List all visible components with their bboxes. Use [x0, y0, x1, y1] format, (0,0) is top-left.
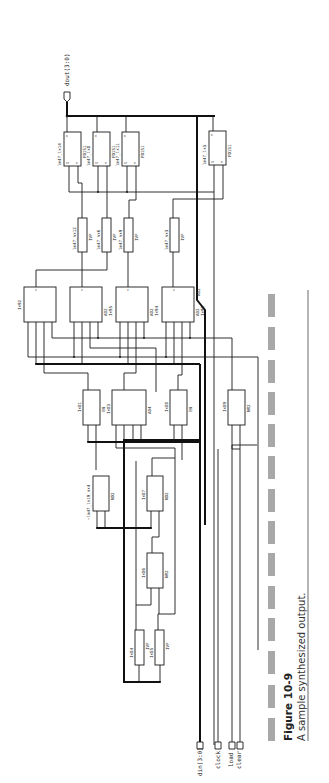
- svg-text:IVP: IVP: [88, 233, 93, 241]
- svg-text:lm47_nx3: lm47_nx3: [164, 229, 169, 250]
- input-port-load: load: [227, 742, 235, 767]
- svg-text:Ix95: Ix95: [108, 305, 113, 316]
- gate-lx19-nx4: ~lm47_lx19_nx4 ND2: [86, 476, 115, 520]
- gate-ix81: Ix81 EN: [77, 390, 106, 425]
- ao-gate-ix92: Ix92 Z: [17, 287, 56, 322]
- svg-text:Ix86: Ix86: [141, 567, 146, 578]
- svg-text:CP: CP: [124, 162, 128, 165]
- port-arrow-icon: [64, 92, 70, 102]
- mux-nx12: lm47_nx12 IVP: [72, 218, 93, 252]
- svg-text:Ix85: Ix85: [149, 647, 154, 658]
- svg-text:lm47_nx9: lm47_nx9: [118, 229, 123, 250]
- svg-text:ND2: ND2: [110, 492, 115, 500]
- flipflop-lx11: lm47_lx11 FD1S1 Q CPD: [115, 116, 145, 166]
- flipflop-lx5: lm47_lx5 FD1S1 Q CPD: [202, 116, 232, 165]
- output-port-dout: dout(3:0): [63, 53, 70, 102]
- svg-text:Ix83: Ix83: [106, 403, 111, 414]
- svg-text:din(3:0): din(3:0): [196, 747, 203, 776]
- gate-ix86: Ix86 NR2: [141, 553, 169, 588]
- gate-ix89: Ix89 NR2: [222, 390, 251, 425]
- svg-text:lm47_lx14: lm47_lx14: [57, 143, 62, 166]
- gate-ix87: Ix87 ND2: [141, 476, 169, 511]
- svg-text:clear: clear: [235, 751, 242, 769]
- svg-text:lm47_lx11: lm47_lx11: [115, 143, 120, 166]
- figure-caption-text: A sample synthesized output.: [296, 592, 307, 741]
- inverter-ix84: Ix84 IVP: [129, 630, 150, 665]
- svg-text:EN: EN: [188, 406, 193, 412]
- svg-text:Ix88: Ix88: [164, 401, 169, 412]
- svg-text:Ix94: Ix94: [154, 305, 159, 316]
- svg-text:CP: CP: [95, 162, 99, 165]
- mux-nx6: lm47_nx6 IVP: [96, 218, 117, 252]
- svg-text:IVP: IVP: [112, 233, 117, 241]
- svg-text:lm47_lx5: lm47_lx5: [202, 144, 207, 165]
- svg-text:lm47_lx8: lm47_lx8: [86, 145, 91, 166]
- svg-text:ND2: ND2: [164, 492, 169, 500]
- port-arrow-icon: [229, 742, 235, 749]
- svg-text:FD1S1: FD1S1: [227, 144, 232, 157]
- schematic-figure: dout(3:0) lm47_lx14 FD1S1 Q CPD lm47_lx8…: [0, 0, 329, 783]
- svg-text:CP: CP: [211, 161, 215, 164]
- svg-text:NR2: NR2: [164, 570, 169, 578]
- svg-text:IVP: IVP: [180, 233, 185, 241]
- inverter-ix85: Ix85 IVP: [149, 630, 170, 665]
- port-arrow-icon: [215, 742, 221, 749]
- decorative-dash-bar: [268, 294, 275, 741]
- svg-text:~lm47_lx19_nx4: ~lm47_lx19_nx4: [86, 484, 91, 520]
- figure-caption: Figure 10-9 A sample synthesized output.: [282, 592, 307, 741]
- svg-text:load: load: [227, 752, 234, 767]
- svg-text:lm47_nx6: lm47_nx6: [96, 229, 101, 250]
- svg-text:FD1S1: FD1S1: [140, 145, 145, 158]
- mux-nx9: lm47_nx9 IVP: [118, 218, 139, 252]
- port-arrow-icon: [237, 742, 243, 749]
- figure-number: Figure 10-9: [282, 673, 294, 741]
- flipflop-lx8: lm47_lx8 FD1S1 Q CPD: [86, 116, 116, 166]
- svg-text:IVP: IVP: [134, 233, 139, 241]
- input-port-din: din(3:0): [196, 640, 203, 776]
- document-page: dout(3:0) lm47_lx14 FD1S1 Q CPD lm47_lx8…: [0, 0, 329, 783]
- svg-text:AO4: AO4: [147, 406, 152, 414]
- svg-text:Ix87: Ix87: [141, 489, 146, 500]
- svg-text:NR2: NR2: [246, 404, 251, 412]
- svg-text:clock: clock: [214, 751, 221, 769]
- svg-text:CP: CP: [66, 162, 70, 165]
- svg-text:Ix81: Ix81: [77, 401, 82, 412]
- svg-text:Ix84: Ix84: [129, 647, 134, 658]
- input-port-clock: clock: [214, 742, 221, 769]
- mux-nx3: lm47_nx3 IVP: [164, 218, 185, 252]
- ao-gate-ix94: AO2 Ix94 Z: [116, 287, 159, 322]
- svg-text:Ix90: Ix90: [200, 305, 205, 316]
- ao-gate-ix95: AO2 Ix95 Z: [70, 287, 113, 322]
- svg-text:Ix89: Ix89: [222, 401, 227, 412]
- gate-ix83: Ix83 AO4: [106, 390, 152, 425]
- svg-text:Ix92: Ix92: [17, 299, 22, 310]
- input-port-clear: clear: [235, 742, 243, 769]
- flipflop-lx14: lm47_lx14 FD1S1 Q CPD: [57, 116, 87, 166]
- port-label-dout: dout(3:0): [63, 53, 70, 86]
- svg-text:IVP: IVP: [165, 642, 170, 650]
- svg-text:AO2: AO2: [196, 288, 201, 296]
- gate-ix88: Ix88 EN: [164, 390, 193, 425]
- ao-input-wires: [28, 322, 258, 650]
- svg-text:lm47_nx12: lm47_nx12: [72, 227, 77, 250]
